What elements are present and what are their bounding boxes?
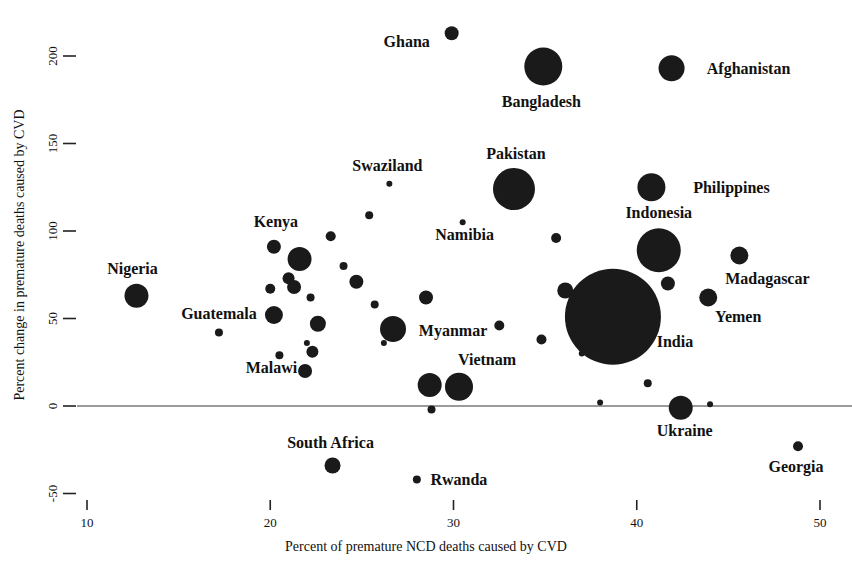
data-point xyxy=(310,316,326,332)
data-point-labeled xyxy=(267,240,281,254)
y-tick-label: -50 xyxy=(45,485,60,502)
data-point-labeled xyxy=(659,55,685,81)
chart-canvas: -500501001502001020304050Percent of prem… xyxy=(0,0,852,568)
data-point-labeled xyxy=(730,247,748,265)
data-point-labeled xyxy=(524,48,562,86)
y-tick-label: 100 xyxy=(45,221,60,241)
data-point xyxy=(494,321,504,331)
data-point-label: Namibia xyxy=(435,226,494,243)
data-point-labeled xyxy=(445,373,473,401)
data-point xyxy=(381,340,387,346)
data-point xyxy=(307,294,315,302)
data-point-labeled xyxy=(380,316,406,342)
x-tick-label: 50 xyxy=(814,515,827,530)
data-point xyxy=(288,247,312,271)
data-point-label: Ukraine xyxy=(657,422,713,439)
data-point-label: Guatemala xyxy=(181,305,257,322)
data-point-labeled xyxy=(445,26,459,40)
data-point-label: Indonesia xyxy=(625,204,692,221)
data-point xyxy=(536,335,546,345)
y-tick-label: 200 xyxy=(45,46,60,66)
x-tick-label: 10 xyxy=(81,515,94,530)
data-point-label: Myanmar xyxy=(419,322,487,340)
data-point-labeled xyxy=(215,329,223,337)
data-point-label: South Africa xyxy=(287,434,374,451)
data-point-label: Afghanistan xyxy=(707,60,791,78)
data-point-labeled xyxy=(460,219,466,225)
data-point xyxy=(298,364,312,378)
data-point-labeled xyxy=(637,173,665,201)
data-point-labeled xyxy=(669,396,693,420)
data-point-label: Ghana xyxy=(384,33,430,50)
data-point-label: India xyxy=(657,333,693,350)
data-point-label: Bangladesh xyxy=(502,93,581,111)
data-point xyxy=(419,291,433,305)
data-point xyxy=(287,280,301,294)
data-point-label: Rwanda xyxy=(430,471,487,488)
data-point-labeled xyxy=(637,228,681,272)
data-point xyxy=(365,211,373,219)
x-tick-label: 40 xyxy=(630,515,643,530)
y-tick-label: 0 xyxy=(45,403,60,410)
data-point xyxy=(644,379,652,387)
y-axis-title: Percent change in premature deaths cause… xyxy=(12,109,27,400)
data-point-label: Pakistan xyxy=(486,145,546,162)
data-point-labeled xyxy=(386,181,392,187)
data-point-labeled xyxy=(699,289,717,307)
data-point xyxy=(661,277,675,291)
data-point-label: Vietnam xyxy=(458,351,517,368)
data-point xyxy=(428,406,436,414)
data-point xyxy=(306,346,318,358)
data-point-label: Malawi xyxy=(246,359,298,376)
data-point-label: Swaziland xyxy=(352,157,422,174)
data-point xyxy=(340,262,348,270)
data-point-labeled xyxy=(275,351,283,359)
data-point-labeled xyxy=(493,168,535,210)
data-point xyxy=(265,284,275,294)
data-point xyxy=(597,400,603,406)
data-point-label: Yemen xyxy=(715,308,761,325)
data-point xyxy=(418,373,442,397)
data-point xyxy=(371,301,379,309)
data-point xyxy=(265,306,283,324)
data-point xyxy=(326,231,336,241)
data-point-label: Georgia xyxy=(768,458,823,476)
y-tick-label: 50 xyxy=(45,312,60,325)
data-point-label: Kenya xyxy=(254,213,298,231)
scatter-plot: -500501001502001020304050Percent of prem… xyxy=(0,0,852,568)
y-tick-label: 150 xyxy=(45,134,60,154)
data-point-labeled xyxy=(325,458,341,474)
data-point-labeled xyxy=(565,269,661,365)
data-point-label: Madagascar xyxy=(725,270,809,288)
data-point-labeled xyxy=(793,441,803,451)
data-point xyxy=(349,275,363,289)
data-point-labeled xyxy=(124,284,148,308)
data-point xyxy=(707,401,713,407)
data-point-labeled xyxy=(413,476,421,484)
data-point xyxy=(551,233,561,243)
data-point-label: Philippines xyxy=(693,179,769,197)
data-point xyxy=(304,340,310,346)
x-tick-label: 30 xyxy=(447,515,460,530)
x-tick-label: 20 xyxy=(264,515,277,530)
x-axis-title: Percent of premature NCD deaths caused b… xyxy=(285,539,567,554)
data-point-label: Nigeria xyxy=(107,260,158,278)
